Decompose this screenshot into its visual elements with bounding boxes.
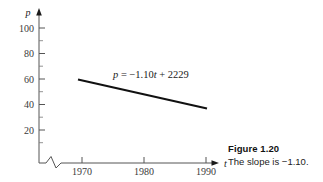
y-tick-label-40: 40 <box>24 99 34 110</box>
y-tick-label-60: 60 <box>24 74 34 85</box>
figure-caption: Figure 1.20 The slope is −1.10. <box>228 143 323 168</box>
figure-caption-title: Figure 1.20 <box>228 143 323 155</box>
x-axis-line-with-break <box>39 157 212 169</box>
equation-annotation: p = −1.10t + 2229 <box>112 69 189 80</box>
x-tick-label-1970: 1970 <box>72 166 92 177</box>
x-tick-label-1990: 1990 <box>196 166 216 177</box>
figure-container: p 100 80 60 40 20 t 1970 1980 1990 <box>0 0 323 182</box>
data-line-series-1 <box>78 80 207 109</box>
y-axis-label: p <box>25 7 31 18</box>
figure-caption-body: The slope is −1.10. <box>228 156 323 168</box>
y-tick-label-80: 80 <box>24 48 34 59</box>
equation-intercept: 2229 <box>168 69 189 80</box>
y-tick-label-100: 100 <box>19 23 34 34</box>
y-axis-arrowhead <box>36 8 42 16</box>
x-axis-label: t <box>224 158 227 169</box>
y-tick-label-20: 20 <box>24 125 34 136</box>
x-tick-label-1980: 1980 <box>134 166 154 177</box>
x-axis-arrowhead <box>212 160 220 166</box>
equation-slope: −1.10 <box>129 69 153 80</box>
